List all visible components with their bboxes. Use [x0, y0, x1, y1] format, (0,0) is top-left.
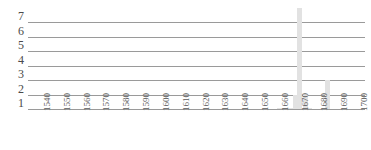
- x-axis-tick-label: 1600: [161, 93, 171, 111]
- x-axis-tick-label: 1560: [82, 93, 92, 111]
- x-axis-tick: 1560: [73, 111, 83, 149]
- gridline: [28, 66, 365, 67]
- bar-chart: 1540155015601570158015901600161016201630…: [0, 0, 371, 150]
- x-axis: 1540155015601570158015901600161016201630…: [28, 109, 365, 150]
- x-axis-tick-label: 1550: [62, 93, 72, 111]
- x-axis-tick: 1540: [33, 111, 43, 149]
- x-axis-tick: 1680: [310, 111, 320, 149]
- x-axis-tick-label: 1590: [141, 93, 151, 111]
- x-axis-tick-label: 1620: [201, 93, 211, 111]
- x-axis-tick: 1630: [211, 111, 221, 149]
- x-axis-tick: 1670: [291, 111, 301, 149]
- plot-area: [28, 8, 365, 109]
- gridline: [28, 37, 365, 38]
- x-axis-tick: 1580: [112, 111, 122, 149]
- x-axis-tick: 1640: [231, 111, 241, 149]
- y-axis-tick-label: 6: [0, 25, 24, 37]
- y-axis-tick-label: 1: [0, 97, 24, 109]
- gridline: [28, 22, 365, 23]
- y-axis-tick-label: 3: [0, 68, 24, 80]
- x-axis-tick: 1610: [172, 111, 182, 149]
- x-axis-tick: 1570: [92, 111, 102, 149]
- x-axis-tick-label: 1540: [42, 93, 52, 111]
- x-axis-tick: 1550: [53, 111, 63, 149]
- x-axis-tick-label: 1630: [220, 93, 230, 111]
- x-axis-tick-label: 1580: [121, 93, 131, 111]
- gridline: [28, 80, 365, 81]
- x-axis-tick-label: 1700: [359, 93, 369, 111]
- y-axis-tick-label: 5: [0, 39, 24, 51]
- x-axis-tick-label: 1610: [181, 93, 191, 111]
- x-axis-tick: 1690: [330, 111, 340, 149]
- x-axis-tick-label: 1650: [260, 93, 270, 111]
- y-axis-tick-label: 4: [0, 54, 24, 66]
- x-axis-tick-label: 1570: [101, 93, 111, 111]
- x-axis-tick: 1600: [152, 111, 162, 149]
- x-axis-tick: 1700: [350, 111, 360, 149]
- x-axis-tick: 1660: [271, 111, 281, 149]
- x-axis-tick-label: 1690: [339, 93, 349, 111]
- x-axis-tick-label: 1670: [300, 93, 310, 111]
- y-axis-tick-label: 2: [0, 83, 24, 95]
- x-axis-tick-label: 1660: [280, 93, 290, 111]
- x-axis-tick: 1590: [132, 111, 142, 149]
- x-axis-tick: 1620: [192, 111, 202, 149]
- x-axis-tick: 1650: [251, 111, 261, 149]
- gridline: [28, 95, 365, 96]
- y-axis-tick-label: 7: [0, 10, 24, 22]
- x-axis-tick-label: 1680: [319, 93, 329, 111]
- x-axis-tick-label: 1640: [240, 93, 250, 111]
- gridline: [28, 51, 365, 52]
